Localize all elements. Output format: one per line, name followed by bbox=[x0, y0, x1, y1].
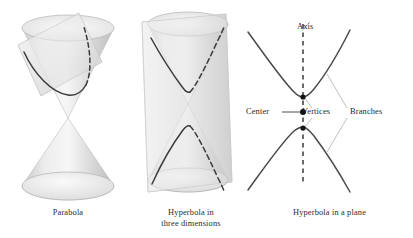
label-center: Center bbox=[246, 107, 269, 116]
label-axis: Axis bbox=[297, 22, 313, 31]
caption-parabola: Parabola bbox=[0, 208, 136, 219]
leader-line-vertex-lower bbox=[304, 118, 312, 128]
vertex-point-upper bbox=[300, 94, 305, 99]
panel-parabola: Parabola bbox=[0, 0, 136, 238]
figure-root: Parabola bbox=[0, 0, 413, 238]
caption-hyperbola-3d-line-2: three dimensions bbox=[136, 219, 246, 230]
label-vertices: Vertices bbox=[302, 107, 330, 116]
caption-hyperbola-3d-line-1: Hyperbola in bbox=[136, 208, 246, 219]
leader-line-branch-upper bbox=[327, 74, 347, 108]
label-branches: Branches bbox=[350, 107, 382, 116]
panel-hyperbola-3d: Hyperbola in three dimensions bbox=[136, 0, 246, 238]
caption-hyperbola-3d: Hyperbola in three dimensions bbox=[136, 208, 246, 229]
hyperbola-branch-lower bbox=[248, 127, 350, 192]
hyperbola-cone-illustration bbox=[136, 0, 246, 205]
panel-hyperbola-plane: Axis Center Vertices Branches Hyperbola … bbox=[246, 0, 413, 238]
caption-hyperbola-plane-line-1: Hyperbola in a plane bbox=[246, 208, 413, 219]
parabola-cone-illustration bbox=[0, 0, 136, 205]
leader-line-branch-lower bbox=[327, 118, 347, 152]
vertex-point-lower bbox=[300, 125, 305, 130]
caption-hyperbola-plane: Hyperbola in a plane bbox=[246, 208, 413, 219]
plane-hyperbola-illustration bbox=[246, 0, 413, 205]
lower-cone-base bbox=[22, 172, 114, 200]
caption-parabola-line-1: Parabola bbox=[0, 208, 136, 219]
